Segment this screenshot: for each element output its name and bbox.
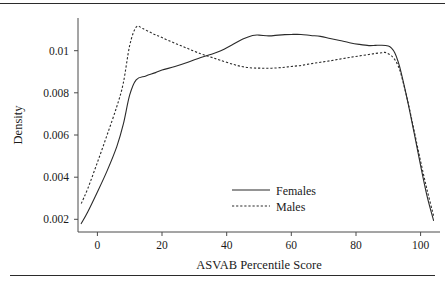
axes-group: [78, 18, 440, 232]
tick-labels-group: 0.0020.0040.0060.0080.01020406080100: [43, 45, 429, 251]
x-tick-label-0: 0: [95, 239, 101, 251]
density-plot: 0.0020.0040.0060.0080.01020406080100 ASV…: [0, 0, 445, 288]
y-tick-label-4: 0.01: [49, 45, 69, 57]
y-tick-label-1: 0.004: [43, 171, 69, 183]
bottom-horizontal-rule: [10, 275, 435, 276]
y-axis-title: Density: [11, 105, 25, 145]
x-axis-title: ASVAB Percentile Score: [196, 258, 322, 272]
x-tick-label-1: 20: [156, 239, 168, 251]
series-line-females: [81, 34, 433, 223]
y-tick-label-2: 0.006: [43, 129, 69, 141]
series-line-males: [81, 26, 433, 216]
figure-container: 0.0020.0040.0060.0080.01020406080100 ASV…: [0, 0, 445, 288]
y-tick-label-0: 0.002: [43, 213, 69, 225]
chart-legend: FemalesMales: [232, 184, 316, 214]
y-tick-label-3: 0.008: [43, 87, 69, 99]
x-tick-label-5: 100: [412, 239, 430, 251]
x-tick-label-3: 60: [286, 239, 298, 251]
series-group: [81, 26, 433, 224]
x-tick-label-2: 40: [221, 239, 233, 251]
legend-label-males: Males: [276, 200, 306, 214]
legend-label-females: Females: [276, 184, 316, 198]
ticks-group: [74, 51, 421, 236]
x-tick-label-4: 80: [350, 239, 362, 251]
